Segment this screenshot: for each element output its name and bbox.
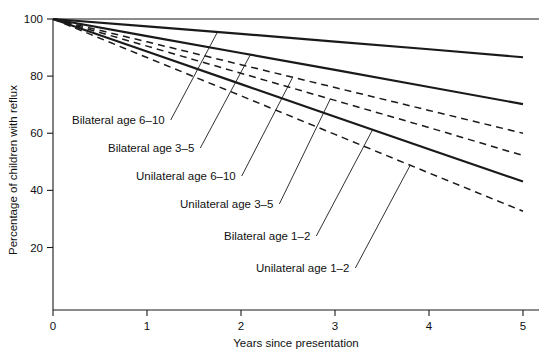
x-tick-label: 5 bbox=[520, 320, 526, 332]
series-line-bilateral-age-6-10 bbox=[53, 19, 523, 57]
y-tick-label: 80 bbox=[30, 70, 43, 82]
ann-unilateral-1-2: Unilateral age 1–2 bbox=[256, 262, 349, 274]
ann-unilateral-6-10: Unilateral age 6–10 bbox=[136, 170, 236, 182]
ann-bilateral-1-2: Bilateral age 1–2 bbox=[224, 230, 310, 242]
x-tick-label: 3 bbox=[332, 320, 338, 332]
leader-line-ann-bilateral-1-2 bbox=[316, 130, 372, 236]
x-tick-label: 2 bbox=[238, 320, 244, 332]
chart-figure: 20406080100 012345 Bilateral age 6–10Bil… bbox=[0, 0, 546, 364]
y-tick-label: 40 bbox=[30, 184, 43, 196]
series-line-bilateral-age-1-2 bbox=[53, 19, 523, 182]
x-axis-ticks: 012345 bbox=[50, 310, 526, 332]
y-tick-label: 100 bbox=[24, 13, 43, 25]
x-tick-label: 0 bbox=[50, 320, 56, 332]
x-tick-label: 4 bbox=[426, 320, 433, 332]
annotation-labels: Bilateral age 6–10Bilateral age 3–5Unila… bbox=[72, 114, 349, 274]
leader-line-ann-unilateral-1-2 bbox=[355, 165, 410, 268]
x-axis-title: Years since presentation bbox=[233, 337, 359, 349]
ann-bilateral-3-5: Bilateral age 3–5 bbox=[108, 142, 194, 154]
ann-unilateral-3-5: Unilateral age 3–5 bbox=[180, 198, 273, 210]
ann-bilateral-6-10: Bilateral age 6–10 bbox=[72, 114, 165, 126]
y-tick-label: 60 bbox=[30, 127, 43, 139]
series-line-bilateral-age-3-5 bbox=[53, 19, 523, 104]
y-axis-title: Percentage of children with reflux bbox=[7, 85, 19, 255]
leader-line-ann-bilateral-3-5 bbox=[200, 55, 250, 148]
y-tick-label: 20 bbox=[30, 242, 43, 254]
y-axis-ticks: 20406080100 bbox=[24, 13, 53, 254]
reflux-resolution-line-chart: 20406080100 012345 Bilateral age 6–10Bil… bbox=[0, 0, 546, 364]
x-tick-label: 1 bbox=[144, 320, 150, 332]
